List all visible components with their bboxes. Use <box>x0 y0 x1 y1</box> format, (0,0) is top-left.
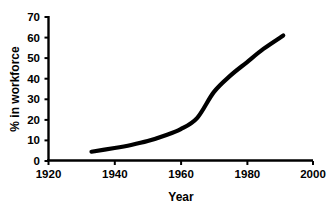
y-tick-label: 60 <box>27 32 40 44</box>
y-tick-label: 10 <box>27 134 40 146</box>
chart-container: 0 10 20 30 40 50 60 70 1920 1940 1960 19… <box>0 0 334 209</box>
y-axis-title: % in workforce <box>8 46 22 132</box>
y-tick-label: 70 <box>27 11 40 23</box>
x-tick-label: 1980 <box>235 168 261 180</box>
y-tick-label: 30 <box>27 93 40 105</box>
x-tick-label: 1940 <box>102 168 128 180</box>
y-tick-label: 0 <box>34 155 40 167</box>
x-tick-label: 2000 <box>300 168 326 180</box>
y-tick-label: 50 <box>27 52 40 64</box>
x-tick-label: 1960 <box>168 168 194 180</box>
x-tick-label: 1920 <box>36 168 62 180</box>
y-tick-label: 40 <box>27 73 40 85</box>
x-axis-title: Year <box>168 190 194 204</box>
y-tick-label: 20 <box>27 114 40 126</box>
line-chart: 0 10 20 30 40 50 60 70 1920 1940 1960 19… <box>0 0 334 209</box>
